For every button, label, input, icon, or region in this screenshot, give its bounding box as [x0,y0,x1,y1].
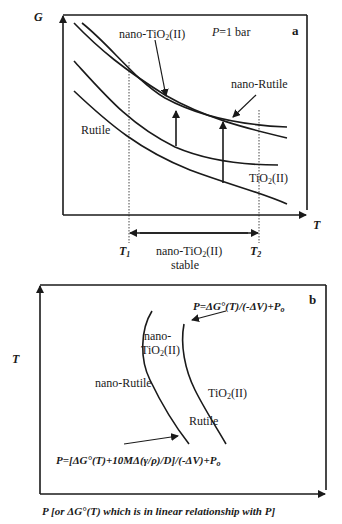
label-tio2-ii: TiO2(II) [249,172,288,184]
panel-b-y-axis-label: T [12,353,19,365]
label-nano-prefix: nano- [144,330,171,342]
panel-a-condition: P=1 bar [212,26,250,38]
panel-a-x-axis-label: T [313,219,320,231]
curve-tio2-ii [74,91,287,204]
panel-b-x-axis-label: P [or ΔG°(T) which is in linear relation… [42,506,275,517]
label-rutile: Rutile [81,124,110,136]
eq-nano: P=[ΔG°(T)+10MΔ(γ/ρ)/D]/(-ΔV)+Po [56,455,220,466]
stable-range-label: nano-TiO2(II) [156,245,222,257]
pointer-nano-rutile [233,95,256,117]
label-nano-tio2-ii: nano-TiO2(II) [119,28,185,40]
pointer-eq-bulk [192,311,226,320]
t2-label: T2 [250,245,261,257]
eq-bulk: P=ΔG°(T)/(-ΔV)+Po [193,301,285,312]
label-tio2-ii-b: TiO2(II) [208,387,247,399]
label-nano-tio2-ii-b: TiO2(II) [141,344,180,356]
panel-a-y-axis-label: G [34,11,43,23]
pointer-nano-tio2-ii [155,40,166,96]
label-nano-rutile-b: nano-Rutile [95,377,152,389]
t1-label: T1 [119,245,130,257]
label-nano-rutile: nano-Rutile [231,78,288,90]
panel-b-letter: b [309,293,316,306]
stable-word: stable [171,259,199,271]
panel-a-letter: a [292,24,299,37]
label-rutile-b: Rutile [189,415,218,427]
pointer-eq-nano [124,436,178,444]
